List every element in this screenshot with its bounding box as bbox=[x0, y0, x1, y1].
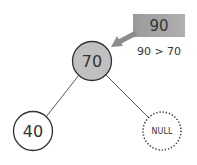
arrow-icon bbox=[111, 33, 136, 47]
tree-node-root: 70 bbox=[73, 42, 112, 81]
tree-node-null: NULL bbox=[143, 112, 181, 150]
node-label: NULL bbox=[152, 127, 173, 136]
edge-root-left bbox=[46, 75, 79, 117]
node-label: 40 bbox=[23, 122, 43, 141]
bst-diagram: 90 90 > 70 70 40 NULL bbox=[0, 0, 197, 165]
insert-value-label: 90 bbox=[149, 17, 168, 35]
comparison-label: 90 > 70 bbox=[137, 45, 181, 58]
insert-value-box: 90 bbox=[133, 14, 185, 37]
tree-node-left: 40 bbox=[14, 112, 53, 151]
node-label: 70 bbox=[82, 52, 102, 71]
edge-root-right bbox=[106, 75, 149, 118]
